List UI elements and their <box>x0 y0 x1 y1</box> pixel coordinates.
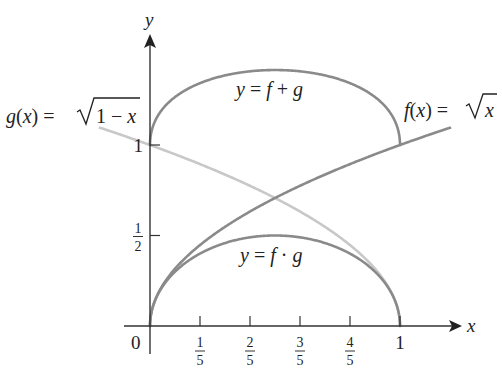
y-axis-label: y <box>143 9 154 30</box>
curve-f-sqrt-x <box>150 128 450 326</box>
function-graph: x y 0 152535451 121 g(x) = 1 − x f(x) = … <box>0 0 502 381</box>
svg-text:f(x) =: f(x) = <box>404 99 448 122</box>
y-ticks: 121 <box>133 135 160 254</box>
label-f-plus-g: y = f + g <box>234 78 303 101</box>
x-tick-denominator: 5 <box>347 353 354 368</box>
svg-text:g(x) =: g(x) = <box>6 105 55 128</box>
x-tick-denominator: 5 <box>247 353 254 368</box>
label-f-times-g: y = f · g <box>238 244 302 267</box>
label-g: g(x) = 1 − x <box>6 98 140 128</box>
svg-text:1 − x: 1 − x <box>96 105 136 127</box>
y-tick-denominator: 2 <box>135 239 142 254</box>
x-tick-numerator: 2 <box>247 335 254 350</box>
origin-label: 0 <box>131 332 141 353</box>
x-tick-denominator: 5 <box>297 353 304 368</box>
svg-text:x: x <box>484 99 494 121</box>
x-axis-label: x <box>466 315 476 336</box>
x-ticks: 152535451 <box>195 316 405 368</box>
y-tick-numerator: 1 <box>135 221 142 236</box>
x-tick-label: 1 <box>395 332 405 353</box>
x-tick-numerator: 3 <box>297 335 304 350</box>
curve-g-sqrt-one-minus-x <box>100 128 400 326</box>
x-tick-numerator: 4 <box>347 335 354 350</box>
y-tick-label: 1 <box>134 135 144 156</box>
x-tick-numerator: 1 <box>197 335 204 350</box>
label-f: f(x) = x <box>404 94 497 122</box>
x-tick-denominator: 5 <box>197 353 204 368</box>
